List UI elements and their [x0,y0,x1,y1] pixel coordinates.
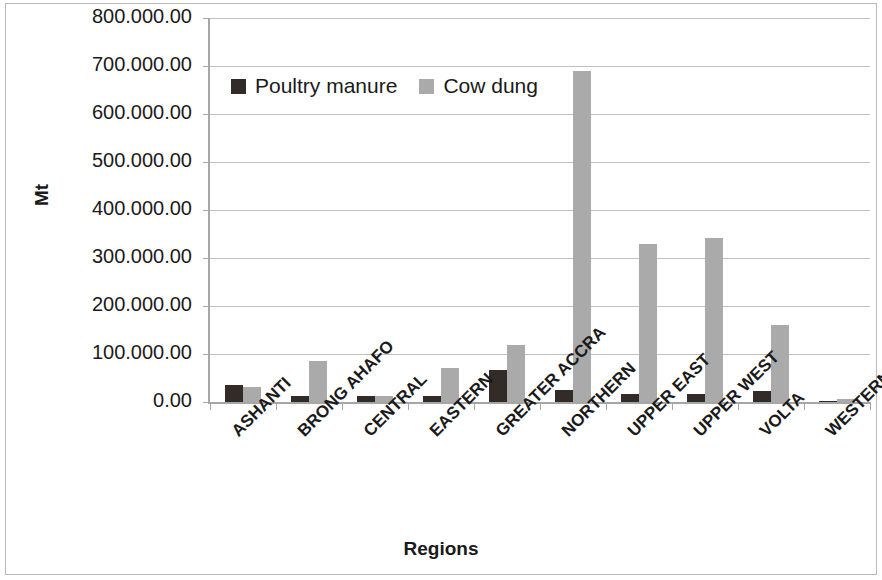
x-category-label-upper-west: UPPER WEST [690,427,704,441]
gridline [210,114,870,115]
bar-cow-dung-greater-accra [507,345,525,402]
y-tick-mark [203,114,210,115]
legend-swatch-icon-cow-dung [419,79,434,94]
x-tick-mark [210,402,211,410]
legend-label-cow-dung: Cow dung [443,74,538,98]
y-tick-label: 0.00 [52,390,192,410]
x-category-label-northern: NORTHERN [558,427,572,441]
y-tick-mark [203,162,210,163]
legend-label-poultry-manure: Poultry manure [255,74,397,98]
y-tick-mark [203,18,210,19]
y-tick-label: 100.000.00 [52,342,192,362]
bar-poultry-manure-volta [753,391,771,402]
gridline [210,66,870,67]
gridline [210,18,870,19]
y-tick-mark [203,210,210,211]
x-axis-title: Regions [0,538,882,560]
x-category-label-eastern: EASTERN [426,427,440,441]
bar-poultry-manure-northern [555,390,573,402]
x-category-label-ashanti: ASHANTI [228,427,242,441]
y-tick-label: 700.000.00 [52,54,192,74]
x-category-label-brong-ahafo: BRONG AHAFO [294,427,308,441]
x-category-label-upper-east: UPPER EAST [624,427,638,441]
y-tick-label: 500.000.00 [52,150,192,170]
y-tick-mark [203,258,210,259]
gridline [210,162,870,163]
y-tick-mark [203,66,210,67]
y-tick-mark [203,306,210,307]
gridline [210,306,870,307]
legend-item-poultry-manure: Poultry manure [231,74,397,98]
bar-poultry-manure-brong-ahafo [291,396,309,402]
gridline [210,258,870,259]
x-category-label-volta: VOLTA [756,427,770,441]
x-category-label-greater-accra: GREATER ACCRA [492,427,506,441]
bar-poultry-manure-eastern [423,396,441,402]
legend-item-cow-dung: Cow dung [419,74,538,98]
y-tick-label: 200.000.00 [52,294,192,314]
y-axis-title: Mt [31,175,53,215]
bar-cow-dung-upper-east [639,244,657,402]
x-category-label-western: WESTERN [822,427,836,441]
y-tick-label: 800.000.00 [52,6,192,26]
y-tick-label: 600.000.00 [52,102,192,122]
gridline [210,210,870,211]
bar-poultry-manure-ashanti [225,385,243,402]
bar-poultry-manure-upper-west [687,394,705,402]
chart-legend: Poultry manure Cow dung [225,68,566,104]
y-tick-label: 300.000.00 [52,246,192,266]
x-category-label-central: CENTRAL [360,427,374,441]
legend-swatch-icon-poultry-manure [231,79,246,94]
bar-poultry-manure-central [357,396,375,402]
y-tick-mark [203,402,210,403]
bar-poultry-manure-western [819,401,837,402]
y-tick-mark [203,354,210,355]
bar-cow-dung-upper-west [705,238,723,402]
y-tick-label: 400.000.00 [52,198,192,218]
chart-figure: Mt Regions 0.00100.000.00200.000.00300.0… [0,0,882,580]
bar-poultry-manure-upper-east [621,394,639,402]
